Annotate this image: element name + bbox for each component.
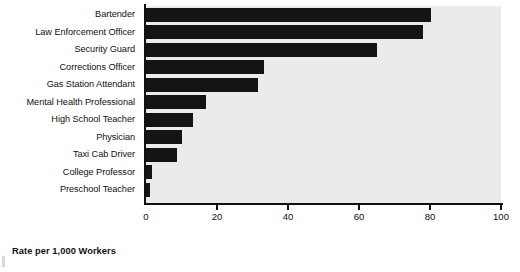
category-label: College Professor — [0, 164, 140, 182]
category-label: Physician — [0, 129, 140, 147]
x-axis-tick — [358, 205, 359, 210]
bar-slot — [146, 6, 501, 24]
x-axis-tick-label: 40 — [283, 211, 294, 222]
bar[interactable] — [146, 43, 377, 57]
bar[interactable] — [146, 78, 258, 92]
bar-slot — [146, 164, 501, 182]
y-axis-line — [144, 4, 146, 205]
bar-slot — [146, 59, 501, 77]
scan-edge-artifact — [2, 256, 5, 267]
category-label: Preschool Teacher — [0, 181, 140, 199]
x-axis-tick-labels: 020406080100 — [146, 211, 501, 227]
bar-slot — [146, 111, 501, 129]
bar[interactable] — [146, 25, 423, 39]
category-label: Mental Health Professional — [0, 94, 140, 112]
x-axis-tick-label: 60 — [354, 211, 365, 222]
bar-slot — [146, 146, 501, 164]
plot-area — [146, 6, 501, 203]
x-axis-tick — [500, 205, 501, 210]
x-axis-tick — [216, 205, 217, 210]
bar[interactable] — [146, 95, 206, 109]
x-axis-title-text: Rate per 1,000 Workers — [12, 246, 116, 256]
bars-layer — [146, 6, 501, 203]
bar-slot — [146, 181, 501, 199]
x-axis-tick — [287, 205, 288, 210]
x-axis-tick — [429, 205, 430, 210]
bar[interactable] — [146, 165, 152, 179]
category-label: Security Guard — [0, 41, 140, 59]
x-axis-title: Rate per 1,000 Workers — [0, 246, 520, 256]
bar[interactable] — [146, 183, 150, 197]
bar-slot — [146, 41, 501, 59]
x-axis-tick-label: 80 — [425, 211, 436, 222]
bar-slot — [146, 76, 501, 94]
bar-chart: Bartender Law Enforcement Officer Securi… — [0, 0, 520, 272]
category-label: High School Teacher — [0, 111, 140, 129]
x-axis-tick-label: 20 — [212, 211, 223, 222]
bar-slot — [146, 24, 501, 42]
x-axis-tick-label: 0 — [143, 211, 148, 222]
bar[interactable] — [146, 60, 264, 74]
bar[interactable] — [146, 130, 182, 144]
x-axis-tick-label: 100 — [493, 211, 509, 222]
category-label: Gas Station Attendant — [0, 76, 140, 94]
category-axis-labels: Bartender Law Enforcement Officer Securi… — [0, 6, 140, 203]
category-label: Taxi Cab Driver — [0, 146, 140, 164]
bar-slot — [146, 94, 501, 112]
bar[interactable] — [146, 148, 177, 162]
category-label: Corrections Officer — [0, 59, 140, 77]
bar-slot — [146, 129, 501, 147]
category-label: Law Enforcement Officer — [0, 24, 140, 42]
bar[interactable] — [146, 113, 193, 127]
bar[interactable] — [146, 8, 431, 22]
category-label: Bartender — [0, 6, 140, 24]
